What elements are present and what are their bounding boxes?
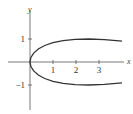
- x-tick-label: 2: [74, 65, 79, 75]
- chart: 1231−1 x y: [0, 0, 133, 114]
- axes: [8, 10, 124, 110]
- y-tick-label: 1: [21, 34, 26, 44]
- y-axis-label: y: [27, 5, 32, 14]
- x-tick-label: 3: [97, 65, 102, 75]
- x-tick-label: 1: [51, 65, 56, 75]
- x-axis-label: x: [126, 57, 131, 66]
- y-tick-label: −1: [15, 80, 25, 90]
